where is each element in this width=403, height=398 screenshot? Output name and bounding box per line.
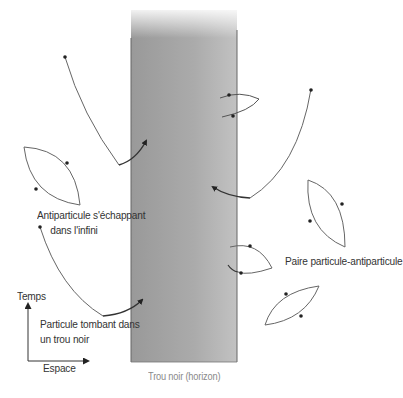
black-hole-region [128, 6, 240, 362]
escaping-label-line1: Antiparticule s'échappant [37, 208, 145, 223]
escaping-antiparticle-label: Antiparticule s'échappant dans l'infini [37, 208, 145, 238]
axis-x-label: Espace [43, 361, 76, 376]
particle-pair-top-right [308, 180, 345, 247]
axis-y-label: Temps [17, 289, 46, 304]
falling-trajectory [38, 225, 142, 316]
particle-pair-bottom-right [265, 286, 319, 325]
escaping-label-line2: dans l'infini [37, 223, 145, 238]
falling-label-line2: un trou noir [40, 332, 140, 347]
particle-pair-left [24, 147, 80, 205]
pair-label: Paire particule-antiparticule [285, 254, 403, 269]
falling-label-line1: Particule tombant dans [40, 317, 140, 332]
falling-particle-label: Particule tombant dans un trou noir [40, 317, 140, 347]
black-hole-label: Trou noir (horizon) [148, 369, 220, 384]
